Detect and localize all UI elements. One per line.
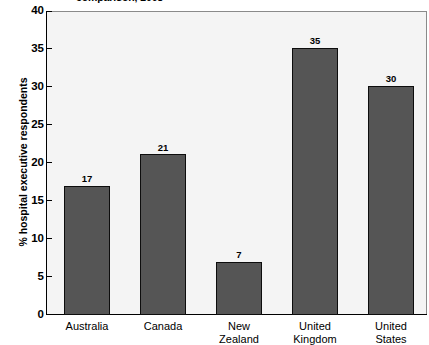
y-tick xyxy=(46,276,52,277)
y-tick-label: 20 xyxy=(10,157,44,169)
bar-chart-figure: comparison, 2008 % hospital executive re… xyxy=(0,0,429,345)
y-tick xyxy=(46,238,52,239)
y-tick xyxy=(46,200,52,201)
y-tick-label: 40 xyxy=(10,5,44,17)
x-tick-label-canada: Canada xyxy=(128,320,198,333)
bar-canada xyxy=(140,154,186,315)
y-tick-label: 15 xyxy=(10,195,44,207)
bar-australia xyxy=(64,186,110,315)
y-tick-label: 35 xyxy=(10,43,44,55)
y-tick xyxy=(46,162,52,163)
bar-united-kingdom xyxy=(292,48,338,315)
x-tick-label-united-states: United States xyxy=(356,320,426,345)
x-tick-label-united-kingdom: United Kingdom xyxy=(280,320,350,345)
y-tick xyxy=(46,86,52,87)
y-tick-label: 0 xyxy=(10,309,44,321)
bar-value-new-zealand: 7 xyxy=(216,250,262,260)
y-tick-label: 25 xyxy=(10,119,44,131)
y-tick xyxy=(46,314,52,315)
x-tick-label-australia: Australia xyxy=(52,320,122,333)
y-tick-label: 30 xyxy=(10,81,44,93)
bar-new-zealand xyxy=(216,262,262,315)
y-tick xyxy=(46,11,52,12)
bar-united-states xyxy=(368,86,414,315)
y-tick-label: 5 xyxy=(10,271,44,283)
x-tick-label-new-zealand: New Zealand xyxy=(204,320,274,345)
bar-value-canada: 21 xyxy=(140,143,186,153)
bar-value-united-states: 30 xyxy=(368,74,414,84)
y-tick-label: 10 xyxy=(10,233,44,245)
chart-title: comparison, 2008 xyxy=(76,0,376,3)
bar-value-united-kingdom: 35 xyxy=(292,36,338,46)
y-tick xyxy=(46,48,52,49)
bar-value-australia: 17 xyxy=(64,174,110,184)
y-axis-line xyxy=(46,11,47,315)
y-tick xyxy=(46,124,52,125)
